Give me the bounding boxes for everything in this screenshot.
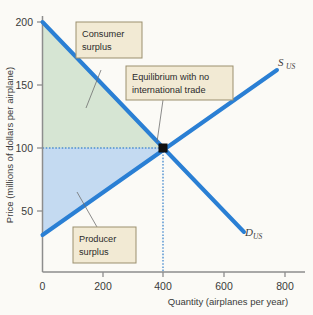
equilibrium-callout-line2: international trade [132, 85, 206, 95]
consumer-surplus-callout-line1: Consumer [82, 29, 124, 39]
producer-surplus-callout-line2: surplus [79, 247, 109, 257]
y-tick-label-200: 200 [15, 16, 33, 28]
x-tick-label-0: 0 [40, 280, 46, 292]
y-axis-title: Price (millions of dollars per airplane) [4, 67, 15, 223]
producer-surplus-callout-box [73, 227, 136, 263]
consumer-surplus-callout: Consumer surplus [76, 22, 142, 58]
y-tick-label-50: 50 [21, 205, 33, 217]
equilibrium-marker [159, 144, 168, 153]
y-tick-label-100: 100 [15, 142, 33, 154]
x-tick-label-200: 200 [94, 280, 112, 292]
x-tick-label-400: 400 [154, 280, 172, 292]
producer-surplus-callout: Producer surplus [73, 227, 136, 263]
x-tick-label-800: 800 [276, 280, 294, 292]
consumer-surplus-callout-box [76, 22, 142, 58]
consumer-surplus-callout-line2: surplus [82, 42, 112, 52]
demand-curve-label: D [244, 226, 253, 238]
chart-canvas: 200 150 100 50 0 200 400 600 800 Quantit… [0, 0, 313, 315]
supply-curve-label: S [278, 56, 284, 68]
equilibrium-callout-line1: Equilibrium with no [132, 72, 209, 82]
supply-demand-chart: 200 150 100 50 0 200 400 600 800 Quantit… [0, 0, 313, 315]
equilibrium-callout: Equilibrium with no international trade [126, 66, 233, 100]
producer-surplus-callout-line1: Producer [79, 234, 116, 244]
demand-curve-label-sub: US [253, 232, 262, 241]
x-axis-title: Quantity (airplanes per year) [168, 296, 288, 307]
supply-curve-label-sub: US [286, 62, 295, 71]
y-tick-label-150: 150 [15, 79, 33, 91]
x-tick-label-600: 600 [215, 280, 233, 292]
